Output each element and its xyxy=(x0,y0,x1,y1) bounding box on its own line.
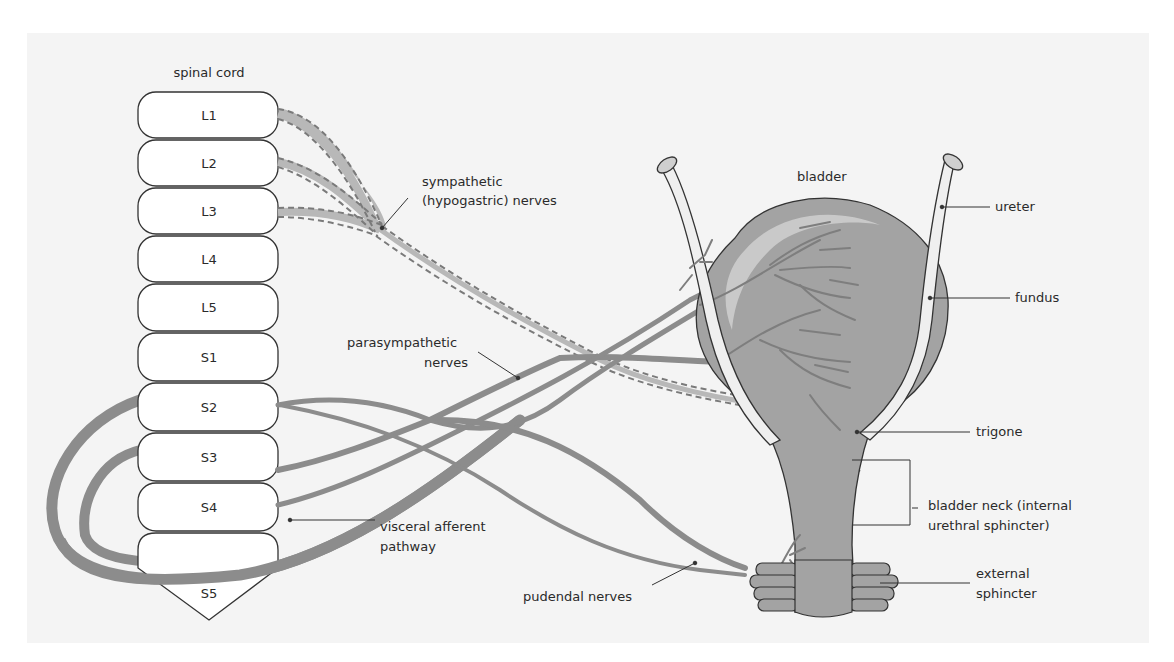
svg-text:S3: S3 xyxy=(201,450,218,465)
svg-text:S1: S1 xyxy=(201,350,218,365)
segment-L3: L3 xyxy=(138,188,278,234)
label-bladder-neck-1: bladder neck (internal xyxy=(928,498,1072,513)
svg-text:L2: L2 xyxy=(201,156,217,171)
segment-L1: L1 xyxy=(138,92,278,138)
label-parasympathetic-1: parasympathetic xyxy=(347,335,457,350)
spinal-cord-title: spinal cord xyxy=(173,65,244,80)
label-parasympathetic-2: nerves xyxy=(424,355,468,370)
label-external-1: external xyxy=(976,566,1030,581)
svg-text:L1: L1 xyxy=(201,108,217,123)
label-visceral-1: visceral afferent xyxy=(380,519,486,534)
svg-text:L3: L3 xyxy=(201,204,217,219)
svg-text:L5: L5 xyxy=(201,300,217,315)
label-trigone: trigone xyxy=(976,424,1023,439)
label-sympathetic-1: sympathetic xyxy=(422,174,503,189)
label-visceral-2: pathway xyxy=(380,539,436,554)
segment-L2: L2 xyxy=(138,140,278,186)
label-bladder: bladder xyxy=(797,169,847,184)
svg-text:L4: L4 xyxy=(201,252,217,267)
spinal-cord: spinal cord L1 L2 L3 L4 L5 S1 S2 xyxy=(138,65,278,620)
label-fundus: fundus xyxy=(1015,290,1060,305)
label-ureter: ureter xyxy=(995,199,1035,214)
label-pudendal: pudendal nerves xyxy=(523,589,632,604)
label-sympathetic-2: (hypogastric) nerves xyxy=(422,193,557,208)
label-external-2: sphincter xyxy=(976,586,1037,601)
svg-text:S2: S2 xyxy=(201,400,218,415)
segment-L5: L5 xyxy=(138,284,278,331)
segment-S2: S2 xyxy=(138,383,278,431)
segment-L4: L4 xyxy=(138,236,278,282)
segment-S3: S3 xyxy=(138,433,278,481)
svg-text:S5: S5 xyxy=(201,586,218,601)
bladder-innervation-diagram: spinal cord L1 L2 L3 L4 L5 S1 S2 xyxy=(0,0,1174,662)
segment-S1: S1 xyxy=(138,333,278,381)
parasympathetic-nerves xyxy=(278,285,745,568)
label-bladder-neck-2: urethral sphincter) xyxy=(928,518,1049,533)
segment-S4: S4 xyxy=(138,483,278,531)
svg-text:S4: S4 xyxy=(201,500,218,515)
